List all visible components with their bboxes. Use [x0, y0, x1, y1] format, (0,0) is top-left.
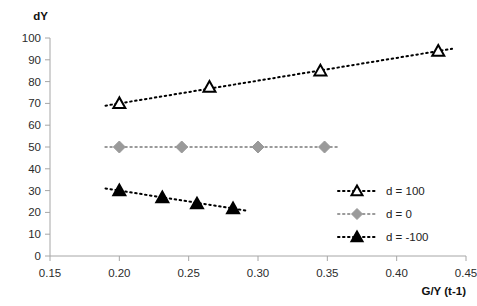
x-axis-tick-label: 0.40: [385, 267, 407, 279]
y-axis-tick-label: 80: [28, 76, 41, 88]
y-axis-tick-label: 0: [35, 250, 41, 262]
y-axis-title: dY: [33, 10, 48, 22]
y-axis-tick-label: 10: [28, 228, 41, 240]
x-axis-tick-label: 0.45: [455, 267, 477, 279]
legend-label: d = 0: [386, 208, 412, 220]
chart-container: 0102030405060708090100 0.150.200.250.300…: [0, 0, 477, 306]
x-axis-title: G/Y (t-1): [421, 285, 466, 297]
x-axis-tick-label: 0.35: [316, 267, 338, 279]
y-axis-tick-label: 60: [28, 119, 41, 131]
y-axis-tick-label: 40: [28, 163, 41, 175]
y-axis-tick-label: 90: [28, 54, 41, 66]
y-axis-tick-label: 50: [28, 141, 41, 153]
x-axis-tick-label: 0.20: [108, 267, 130, 279]
y-axis-tick-label: 30: [28, 185, 41, 197]
x-axis-tick-label: 0.30: [247, 267, 269, 279]
scatter-chart: 0102030405060708090100 0.150.200.250.300…: [0, 0, 477, 306]
x-axis-tick-label: 0.25: [177, 267, 199, 279]
chart-background: [0, 0, 477, 306]
y-axis-tick-label: 100: [22, 32, 41, 44]
y-axis-tick-label: 70: [28, 97, 41, 109]
x-axis-tick-label: 0.15: [39, 267, 61, 279]
legend-label: d = -100: [386, 231, 429, 243]
y-axis-tick-label: 20: [28, 206, 41, 218]
legend-label: d = 100: [386, 185, 425, 197]
